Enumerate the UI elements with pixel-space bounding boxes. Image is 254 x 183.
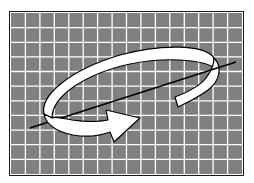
rotation-diagram <box>0 0 254 183</box>
grid-background-icon <box>11 13 242 174</box>
